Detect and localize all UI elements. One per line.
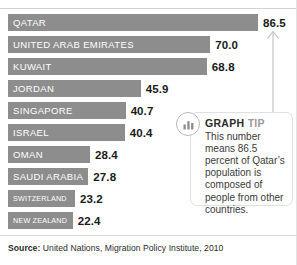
bar: SAUDI ARABIA — [8, 168, 88, 185]
bar-category-label: SAUDI ARABIA — [13, 172, 83, 182]
bar: SWITZERLAND — [8, 190, 75, 207]
bar-value-label: 70.0 — [215, 40, 238, 52]
bar-chart-icon — [182, 118, 195, 131]
graph-tip-callout: GRAPH TIP This number means 86.5 percent… — [190, 112, 293, 206]
bar-category-label: UNITED ARAB EMIRATES — [13, 40, 134, 50]
bar-value-label: 28.4 — [95, 150, 118, 162]
bar: KUWAIT — [8, 58, 207, 75]
source-text: United Nations, Migration Policy Institu… — [43, 243, 224, 253]
bar-value-label: 45.9 — [146, 84, 169, 96]
top-divider — [0, 8, 297, 9]
bar-category-label: JORDAN — [13, 84, 54, 94]
bar: SINGAPORE — [8, 102, 126, 119]
bar-value-label: 68.8 — [212, 62, 235, 74]
bar-category-label: ISRAEL — [13, 128, 49, 138]
bar-category-label: QATAR — [13, 18, 46, 28]
bar-row: UNITED ARAB EMIRATES70.0 — [0, 35, 297, 57]
source-divider — [0, 235, 297, 236]
bar-row: JORDAN45.9 — [0, 79, 297, 101]
infographic-bar-chart: QATAR86.5UNITED ARAB EMIRATES70.0KUWAIT6… — [0, 0, 297, 265]
bar-category-label: SINGAPORE — [13, 106, 73, 116]
source-note: Source: United Nations, Migration Policy… — [8, 243, 223, 253]
bar-row: KUWAIT68.8 — [0, 57, 297, 79]
bar: UNITED ARAB EMIRATES — [8, 36, 210, 53]
bar-row: QATAR86.5 — [0, 13, 297, 35]
graph-tip-heading-secondary: TIP — [248, 117, 265, 129]
bar-value-label: 27.8 — [93, 172, 116, 184]
graph-tip-body: This number means 86.5 percent of Qatar’… — [205, 131, 286, 216]
bar: ISRAEL — [8, 124, 125, 141]
bar-value-label: 23.2 — [80, 194, 103, 206]
bar: NEW ZEALAND — [8, 212, 73, 229]
bar: OMAN — [8, 146, 90, 163]
bar-category-label: NEW ZEALAND — [13, 217, 67, 224]
bar-category-label: OMAN — [13, 150, 43, 160]
bar-value-label: 22.4 — [78, 216, 101, 228]
graph-tip-heading: GRAPH TIP — [205, 118, 286, 130]
bar-category-label: SWITZERLAND — [13, 195, 67, 202]
bar: JORDAN — [8, 80, 141, 97]
source-label: Source: — [8, 243, 40, 253]
bar-value-label: 40.7 — [131, 106, 154, 118]
graph-tip-heading-primary: GRAPH — [205, 117, 244, 129]
graph-tip-badge — [176, 112, 200, 136]
bar-value-label: 40.4 — [130, 128, 153, 140]
bar-category-label: KUWAIT — [13, 62, 52, 72]
bar: QATAR — [8, 14, 258, 31]
